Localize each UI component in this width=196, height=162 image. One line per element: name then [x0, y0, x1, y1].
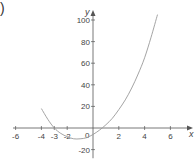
x-tick-label: 4 — [142, 132, 147, 141]
x-tick-label: -4 — [38, 132, 46, 141]
y-tick-label: 80 — [81, 38, 90, 47]
y-tick-label: -20 — [78, 146, 90, 155]
y-tick-label: 20 — [81, 102, 90, 111]
plot-area — [41, 15, 157, 139]
y-tick-label: 40 — [81, 81, 90, 90]
x-tick-label: 2 — [117, 132, 122, 141]
x-tick-label: 6 — [168, 132, 173, 141]
x-tick-label: -3 — [51, 132, 59, 141]
y-tick-label: 100 — [77, 16, 91, 25]
chart: xy -6-4-3-2024610080604020-20 — [0, 0, 196, 162]
y-tick-label: 60 — [81, 59, 90, 68]
x-tick-label: -6 — [12, 132, 20, 141]
x-axis-label: x — [188, 129, 194, 139]
data-curve — [41, 15, 157, 139]
x-tick-label: 0 — [85, 131, 90, 140]
y-axis-arrow-icon — [91, 10, 96, 16]
